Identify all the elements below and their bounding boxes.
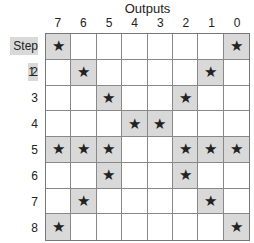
empty-cell	[173, 111, 198, 137]
empty-cell	[148, 86, 173, 112]
empty-cell	[97, 189, 122, 215]
empty-cell	[97, 111, 122, 137]
empty-cell	[148, 60, 173, 86]
empty-cell	[148, 214, 173, 240]
empty-cell	[148, 137, 173, 163]
empty-cell	[148, 189, 173, 215]
star-icon: ★	[204, 192, 217, 210]
marked-cell: ★	[224, 34, 249, 60]
star-icon: ★	[179, 140, 192, 158]
marked-cell: ★	[198, 189, 223, 215]
marked-cell: ★	[71, 60, 96, 86]
star-icon: ★	[128, 115, 141, 133]
empty-cell	[122, 137, 147, 163]
empty-cell	[97, 214, 122, 240]
empty-cell	[198, 86, 223, 112]
empty-cell	[46, 163, 71, 189]
marked-cell: ★	[173, 163, 198, 189]
step-output-grid: ★★★★★★★★★★★★★★★★★★★★	[45, 33, 250, 241]
star-icon: ★	[179, 166, 192, 184]
marked-cell: ★	[173, 86, 198, 112]
marked-cell: ★	[122, 111, 147, 137]
row-label: 3	[31, 91, 38, 105]
empty-cell	[97, 60, 122, 86]
empty-cell	[122, 60, 147, 86]
star-icon: ★	[102, 166, 115, 184]
marked-cell: ★	[148, 111, 173, 137]
star-icon: ★	[102, 89, 115, 107]
row-header: 2	[0, 59, 44, 85]
row-header: 8	[0, 215, 44, 241]
empty-cell	[224, 86, 249, 112]
empty-cell	[46, 189, 71, 215]
empty-cell	[46, 60, 71, 86]
star-icon: ★	[52, 140, 65, 158]
marked-cell: ★	[173, 137, 198, 163]
marked-cell: ★	[46, 214, 71, 240]
row-label: 8	[31, 221, 38, 235]
empty-cell	[122, 163, 147, 189]
star-icon: ★	[230, 37, 243, 55]
column-header: 5	[96, 16, 122, 30]
empty-cell	[173, 60, 198, 86]
empty-cell	[46, 86, 71, 112]
marked-cell: ★	[46, 137, 71, 163]
marked-cell: ★	[224, 214, 249, 240]
empty-cell	[71, 163, 96, 189]
star-icon: ★	[52, 218, 65, 236]
star-icon: ★	[230, 140, 243, 158]
empty-cell	[173, 214, 198, 240]
row-label: 4	[31, 117, 38, 131]
marked-cell: ★	[46, 34, 71, 60]
empty-cell	[224, 60, 249, 86]
marked-cell: ★	[198, 137, 223, 163]
star-icon: ★	[204, 63, 217, 81]
marked-cell: ★	[97, 163, 122, 189]
empty-cell	[198, 163, 223, 189]
empty-cell	[71, 214, 96, 240]
empty-cell	[122, 34, 147, 60]
row-label: 5	[31, 143, 38, 157]
empty-cell	[198, 111, 223, 137]
empty-cell	[224, 163, 249, 189]
marked-cell: ★	[71, 189, 96, 215]
empty-cell	[71, 34, 96, 60]
row-label: 6	[31, 169, 38, 183]
column-header: 1	[199, 16, 225, 30]
outputs-title: Outputs	[45, 1, 250, 16]
empty-cell	[224, 111, 249, 137]
marked-cell: ★	[97, 137, 122, 163]
row-header: 6	[0, 163, 44, 189]
star-icon: ★	[230, 218, 243, 236]
empty-cell	[198, 214, 223, 240]
empty-cell	[122, 189, 147, 215]
empty-cell	[71, 86, 96, 112]
marked-cell: ★	[224, 137, 249, 163]
marked-cell: ★	[198, 60, 223, 86]
star-icon: ★	[102, 140, 115, 158]
row-header: 3	[0, 85, 44, 111]
column-header: 6	[71, 16, 97, 30]
star-icon: ★	[77, 63, 90, 81]
empty-cell	[122, 214, 147, 240]
row-header: Step 1	[0, 33, 44, 59]
column-header: 7	[45, 16, 71, 30]
row-headers: Step 12345678	[0, 33, 44, 241]
empty-cell	[71, 111, 96, 137]
column-header: 4	[122, 16, 148, 30]
empty-cell	[198, 34, 223, 60]
row-header: 4	[0, 111, 44, 137]
star-icon: ★	[77, 192, 90, 210]
marked-cell: ★	[97, 86, 122, 112]
row-header: 5	[0, 137, 44, 163]
empty-cell	[148, 163, 173, 189]
row-header: 7	[0, 189, 44, 215]
row-label: 7	[31, 195, 38, 209]
star-icon: ★	[77, 140, 90, 158]
empty-cell	[173, 34, 198, 60]
star-icon: ★	[153, 115, 166, 133]
empty-cell	[173, 189, 198, 215]
star-icon: ★	[204, 140, 217, 158]
empty-cell	[46, 111, 71, 137]
column-header: 2	[173, 16, 199, 30]
